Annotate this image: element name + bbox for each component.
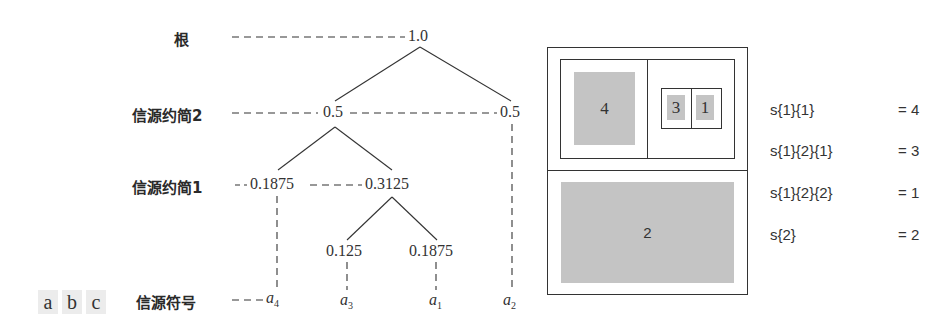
chip-a: a <box>38 290 58 314</box>
node-r2-left: 0.5 <box>323 103 343 121</box>
chip-b: b <box>62 290 82 314</box>
partition-small-divider <box>691 88 692 129</box>
partition-horizontal-divider <box>547 170 748 171</box>
level-label-reduction1: 信源约简1 <box>132 176 202 197</box>
code-expr-4: s{2} <box>770 226 796 243</box>
chip-c: c <box>86 290 106 314</box>
level-label-symbols: 信源符号 <box>136 291 196 312</box>
node-r2-right: 0.5 <box>500 103 520 121</box>
symbol-a1: a1 <box>429 291 442 311</box>
level-label-reduction2: 信源约简2 <box>132 104 202 125</box>
symbol-a3: a3 <box>340 291 353 311</box>
partition-inner-divider <box>647 59 648 159</box>
level-label-root: 根 <box>174 28 189 49</box>
cell-1: 1 <box>696 95 714 120</box>
symbol-a2: a2 <box>503 291 516 311</box>
code-eq-3: = 1 <box>898 184 919 201</box>
cell-3: 3 <box>667 95 685 120</box>
cell-4: 4 <box>574 72 635 145</box>
node-r1-right: 0.3125 <box>365 175 409 193</box>
cell-2: 2 <box>561 182 734 283</box>
code-eq-2: = 3 <box>898 142 919 159</box>
code-expr-2: s{1}{2}{1} <box>770 142 833 159</box>
code-expr-3: s{1}{2}{2} <box>770 184 833 201</box>
node-leaf-a1: 0.1875 <box>409 242 453 260</box>
code-eq-1: = 4 <box>898 101 919 118</box>
node-root: 1.0 <box>408 27 428 45</box>
node-r1-left: 0.1875 <box>250 175 294 193</box>
symbol-a4: a4 <box>266 289 279 309</box>
tree-lines <box>0 0 950 334</box>
code-expr-1: s{1}{1} <box>770 101 814 118</box>
node-leaf-a3: 0.125 <box>326 242 362 260</box>
code-eq-4: = 2 <box>898 226 919 243</box>
